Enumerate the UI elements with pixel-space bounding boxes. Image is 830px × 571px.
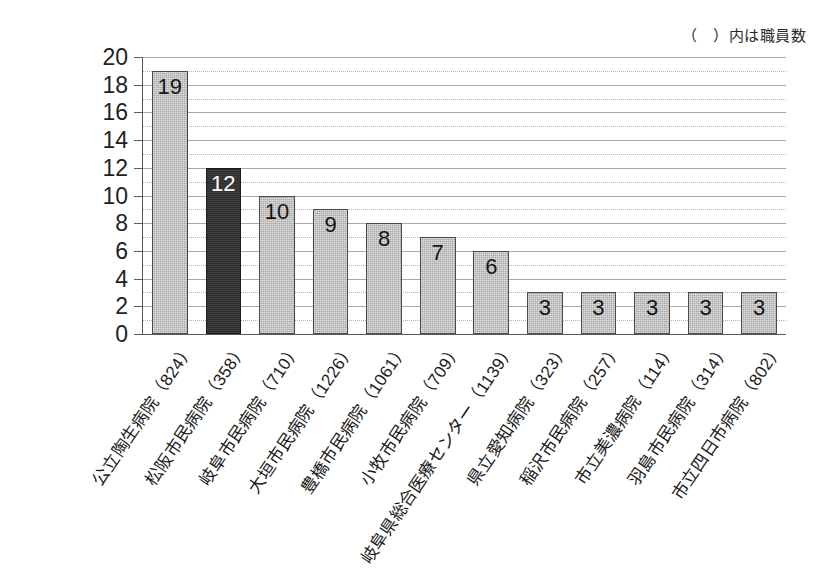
x-axis-labels: 公立陶生病院（824）松阪市民病院（358）岐阜市民病院（710）大垣市民病院（… [142, 337, 785, 567]
y-tick-mark-18 [134, 85, 142, 86]
y-tick-mark-10 [134, 196, 142, 197]
y-tick-mark-12 [134, 168, 142, 169]
bar-value-label: 3 [689, 296, 723, 320]
bar-value-label: 8 [367, 227, 401, 251]
bar[interactable]: 19 [152, 71, 188, 334]
bar-slot: 19 [152, 57, 188, 334]
y-tick-mark-16 [134, 112, 142, 113]
x-axis-label: 小牧市民病院（709） [358, 341, 465, 489]
y-tick-mark-2 [134, 306, 142, 307]
y-tick-label-18: 18 [102, 73, 128, 96]
y-tick-label-14: 14 [102, 129, 128, 152]
x-axis-label: 羽島市民病院（314） [625, 341, 732, 489]
bars-container: 191210987633333 [143, 57, 786, 334]
bar[interactable]: 7 [420, 237, 456, 334]
y-tick-label-4: 4 [115, 267, 128, 290]
bar-slot: 6 [473, 57, 509, 334]
x-axis-label: 稲沢市民病院（257） [518, 341, 625, 489]
y-tick-label-2: 2 [115, 295, 128, 318]
y-tick-mark-20 [134, 57, 142, 58]
bar-slot: 3 [527, 57, 563, 334]
bar[interactable]: 12 [206, 168, 242, 334]
plot-area: 191210987633333 [142, 57, 786, 335]
bar-slot: 10 [259, 57, 295, 334]
y-tick-label-8: 8 [115, 212, 128, 235]
y-tick-label-20: 20 [102, 46, 128, 69]
chart-annotation-note: （ ）内は職員数 [682, 24, 806, 45]
bar-value-label: 3 [528, 296, 562, 320]
y-tick-mark-14 [134, 140, 142, 141]
x-axis-label: 松阪市民病院（358） [143, 341, 250, 489]
bar[interactable]: 3 [581, 292, 617, 334]
bar-slot: 12 [206, 57, 242, 334]
bar[interactable]: 3 [741, 292, 777, 334]
bar-chart-figure: （ ）内は職員数 20181614121086420 1912109876333… [0, 0, 830, 571]
bar-slot: 3 [688, 57, 724, 334]
x-axis-label: 県立愛知病院（323） [465, 341, 572, 489]
y-tick-mark-0 [134, 334, 142, 335]
bar-value-label: 7 [421, 241, 455, 265]
bar-value-label: 6 [474, 255, 508, 279]
bar[interactable]: 3 [688, 292, 724, 334]
bar-value-label: 3 [635, 296, 669, 320]
x-axis-label: 公立陶生病院（824） [90, 341, 197, 489]
x-axis-label: 市立美濃病院（114） [573, 341, 680, 488]
bar-slot: 8 [366, 57, 402, 334]
bar-value-label: 3 [742, 296, 776, 320]
x-axis-label: 市立四日市病院（802） [669, 341, 786, 503]
bar[interactable]: 3 [527, 292, 563, 334]
y-tick-mark-4 [134, 279, 142, 280]
bar-value-label: 9 [314, 213, 348, 237]
y-axis: 20181614121086420 [86, 57, 134, 334]
x-axis-label: 岐阜市民病院（710） [197, 341, 304, 489]
bar[interactable]: 8 [366, 223, 402, 334]
y-tick-label-10: 10 [102, 184, 128, 207]
bar-value-label: 12 [207, 172, 241, 196]
bar[interactable]: 6 [473, 251, 509, 334]
bar[interactable]: 9 [313, 209, 349, 334]
y-tick-label-6: 6 [115, 239, 128, 262]
y-tick-mark-8 [134, 223, 142, 224]
bar-slot: 3 [581, 57, 617, 334]
bar-value-label: 10 [260, 200, 294, 224]
bar-slot: 9 [313, 57, 349, 334]
bar-slot: 3 [634, 57, 670, 334]
bar-slot: 7 [420, 57, 456, 334]
y-tick-label-16: 16 [102, 101, 128, 124]
y-tick-label-12: 12 [102, 156, 128, 179]
bar[interactable]: 10 [259, 196, 295, 335]
y-tick-mark-6 [134, 251, 142, 252]
x-axis-label: 大垣市民病院（1226） [245, 341, 358, 497]
bar-value-label: 3 [582, 296, 616, 320]
x-axis-label: 豊橋市民病院（1061） [299, 341, 412, 497]
bar[interactable]: 3 [634, 292, 670, 334]
bar-value-label: 19 [153, 75, 187, 99]
y-tick-label-0: 0 [115, 323, 128, 346]
bar-slot: 3 [741, 57, 777, 334]
